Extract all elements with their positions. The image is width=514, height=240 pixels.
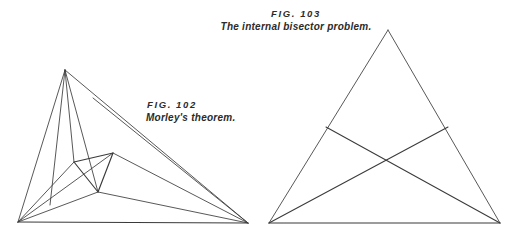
fig102-trisector-a3 bbox=[65, 70, 74, 162]
fig102-side-BC bbox=[18, 222, 248, 223]
fig102-side-AB bbox=[18, 70, 65, 222]
fig103-bisector-from-B bbox=[269, 127, 448, 223]
fig102-trisector-b1 bbox=[18, 162, 74, 222]
figure-plate: FIG. 102 Morley's theorem. FIG. 103 The … bbox=[0, 0, 514, 240]
figure-103-title: The internal bisector problem. bbox=[196, 21, 396, 32]
fig102-side-CA bbox=[65, 70, 248, 223]
fig103-side-AB bbox=[269, 30, 388, 223]
fig102-trisector-a2 bbox=[65, 70, 98, 192]
fig103-bisector-from-C bbox=[326, 127, 500, 223]
figure-103-caption: FIG. 103 The internal bisector problem. bbox=[196, 8, 396, 32]
figure-102-caption: FIG. 102 Morley's theorem. bbox=[146, 99, 235, 123]
figure-102-title: Morley's theorem. bbox=[146, 112, 235, 123]
figure-102-diagram bbox=[18, 70, 248, 223]
fig102-trisector-b2 bbox=[18, 192, 98, 222]
fig102-trisector-c2 bbox=[113, 153, 248, 223]
figure-103-number: FIG. 103 bbox=[196, 8, 396, 19]
fig102-trisector-b3 bbox=[18, 153, 113, 222]
fig103-side-CA bbox=[388, 30, 500, 223]
fig102-morley-triangle bbox=[74, 153, 113, 192]
figures-svg bbox=[0, 0, 514, 240]
fig102-trisector-c1 bbox=[98, 192, 248, 223]
figure-103-diagram bbox=[269, 30, 500, 223]
figure-102-number: FIG. 102 bbox=[147, 99, 235, 110]
